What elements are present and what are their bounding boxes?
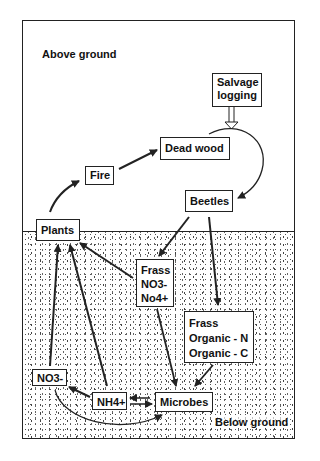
salvage-line-1: Salvage xyxy=(217,76,257,89)
frass-organic-line-1: Frass xyxy=(189,316,249,331)
salvage-line-2: logging xyxy=(217,89,257,102)
frass-organic-node: Frass Organic - N Organic - C xyxy=(184,311,254,363)
nh4-node: NH4+ xyxy=(92,392,127,410)
fire-node: Fire xyxy=(85,166,114,185)
dead-wood-node: Dead wood xyxy=(160,137,230,160)
frass-organic-line-3: Organic - C xyxy=(189,346,249,361)
above-ground-label: Above ground xyxy=(42,48,117,60)
plants-node: Plants xyxy=(36,219,80,241)
below-ground-label: Below ground xyxy=(215,416,288,428)
frass-mineral-line-2: NO3- xyxy=(141,277,169,291)
no3-node: NO3- xyxy=(32,369,67,386)
microbes-node: Microbes xyxy=(155,392,213,412)
salvage-logging-node: Salvage logging xyxy=(212,73,262,107)
frass-mineral-node: Frass NO3- No4+ xyxy=(136,259,174,307)
frass-mineral-line-1: Frass xyxy=(141,263,169,277)
frass-organic-line-2: Organic - N xyxy=(189,331,249,346)
beetles-node: Beetles xyxy=(185,190,233,212)
frass-mineral-line-3: No4+ xyxy=(141,291,169,305)
